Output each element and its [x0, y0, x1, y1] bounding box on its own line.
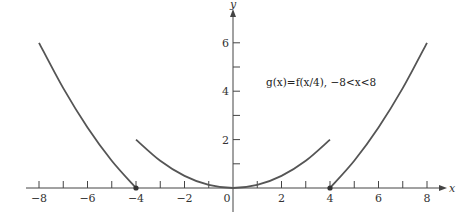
x-tick-label: 8 [424, 192, 431, 205]
x-tick-label: −6 [79, 192, 95, 205]
x-tick-label: 0 [224, 192, 231, 205]
function-annotation: g(x)=f(x/4), −8<x<8 [266, 76, 376, 88]
x-tick-label: 4 [327, 192, 334, 205]
endpoint-dot [327, 185, 332, 190]
curve-left-branch [39, 43, 136, 188]
curve-right-branch [330, 43, 427, 188]
x-axis-arrow-icon [439, 185, 447, 191]
y-tick-label: 6 [222, 37, 229, 50]
x-tick-label: −4 [128, 192, 144, 205]
x-tick-label: 6 [375, 192, 382, 205]
x-axis-label: x [449, 182, 456, 195]
axes [26, 9, 447, 212]
labels: −8−6−4−202468246xyg(x)=f(x/4), −8<x<8 [31, 0, 456, 205]
y-tick-label: 4 [222, 85, 229, 98]
x-tick-label: −2 [176, 192, 192, 205]
endpoint-dot [133, 185, 138, 190]
y-axis-label: y [229, 0, 237, 11]
function-plot: −8−6−4−202468246xyg(x)=f(x/4), −8<x<8 [0, 0, 474, 212]
y-tick-label: 2 [222, 134, 229, 147]
x-tick-label: 2 [278, 192, 285, 205]
x-tick-label: −8 [31, 192, 47, 205]
